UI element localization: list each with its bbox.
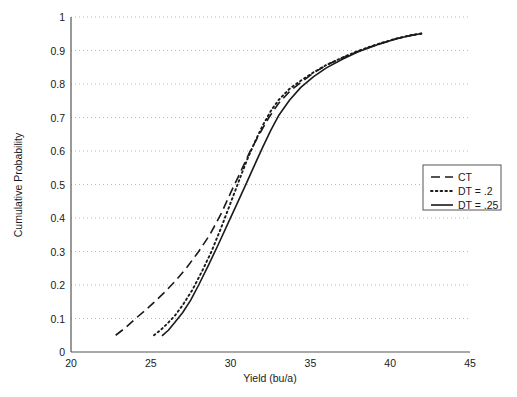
x-tick-label: 30 xyxy=(225,357,237,369)
x-tick-label: 45 xyxy=(464,357,476,369)
chart-canvas: 202530354045 00.10.20.30.40.50.60.70.80.… xyxy=(0,0,517,397)
y-tick-label: 0.2 xyxy=(50,279,65,291)
y-tick-label: 0.5 xyxy=(50,179,65,191)
y-tick-label: 1 xyxy=(59,11,65,23)
y-tick-label: 0.1 xyxy=(50,313,65,325)
x-tick-label: 35 xyxy=(305,357,317,369)
x-tick-label: 20 xyxy=(65,357,77,369)
x-tick-label: 40 xyxy=(384,357,396,369)
y-tick-label: 0.8 xyxy=(50,78,65,90)
cumulative-probability-chart: 202530354045 00.10.20.30.40.50.60.70.80.… xyxy=(0,0,517,397)
y-axis-title: Cumulative Probability xyxy=(12,132,24,237)
y-tick-label: 0.3 xyxy=(50,246,65,258)
legend-label-0: CT xyxy=(458,171,473,183)
y-tick-label: 0.9 xyxy=(50,45,65,57)
legend-label-2: DT = .25 xyxy=(458,199,499,211)
y-tick-label: 0.4 xyxy=(50,212,65,224)
x-tick-label: 25 xyxy=(145,357,157,369)
y-tick-label: 0.7 xyxy=(50,112,65,124)
legend-label-1: DT = .2 xyxy=(458,185,493,197)
y-tick-label: 0.6 xyxy=(50,145,65,157)
y-tick-label: 0 xyxy=(59,346,65,358)
x-axis-title: Yield (bu/a) xyxy=(243,372,296,384)
legend: CTDT = .2DT = .25 xyxy=(423,165,501,211)
